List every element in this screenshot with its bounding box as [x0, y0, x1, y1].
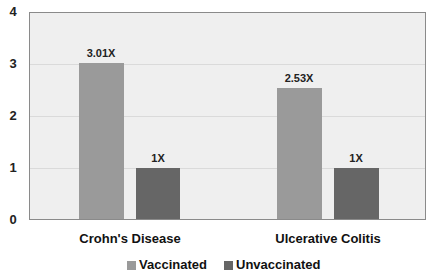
y-tick-1: 1: [6, 161, 20, 175]
legend-swatch-unvaccinated: [224, 261, 233, 270]
bar-label-crohns-vaccinated: 3.01X: [71, 47, 131, 59]
bar-label-uc-vaccinated: 2.53X: [269, 72, 329, 84]
y-tick-3: 3: [6, 57, 20, 71]
bar-uc-unvaccinated: [334, 168, 379, 219]
y-tick-4: 4: [6, 5, 20, 19]
bar-label-uc-unvaccinated: 1X: [326, 152, 386, 164]
x-category-crohns: Crohn's Disease: [40, 231, 220, 247]
y-tick-2: 2: [6, 109, 20, 123]
legend-label-unvaccinated: Unvaccinated: [236, 257, 321, 273]
bar-crohns-vaccinated: [79, 63, 124, 219]
bar-label-crohns-unvaccinated: 1X: [128, 152, 188, 164]
legend-swatch-vaccinated: [127, 261, 136, 270]
y-tick-0: 0: [6, 213, 20, 227]
legend-label-vaccinated: Vaccinated: [139, 257, 207, 273]
legend: Vaccinated Unvaccinated: [0, 257, 437, 273]
bar-crohns-unvaccinated: [136, 168, 180, 219]
x-category-uc: Ulcerative Colitis: [238, 231, 418, 247]
bar-uc-vaccinated: [277, 88, 322, 219]
legend-item-unvaccinated: Unvaccinated: [224, 257, 321, 273]
legend-item-vaccinated: Vaccinated: [127, 257, 207, 273]
